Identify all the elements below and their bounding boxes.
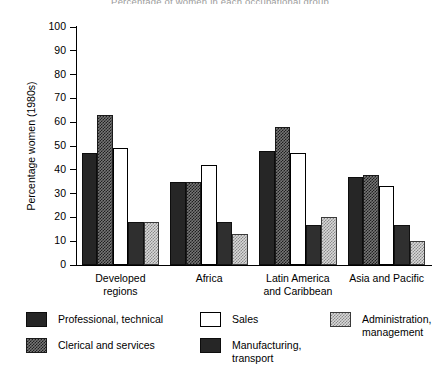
y-tick-label-20: 20 — [26, 211, 66, 221]
y-tick-label-50: 50 — [26, 140, 66, 150]
bar-prof-1 — [170, 182, 186, 265]
bar-cler-1 — [186, 182, 202, 265]
legend-swatch-icon-0 — [26, 312, 47, 327]
legend-label-0: Professional, technical — [58, 312, 163, 326]
y-tick-label-0: 0 — [26, 259, 66, 269]
bar-group-1 — [170, 27, 248, 265]
bar-cler-3 — [363, 175, 379, 265]
legend-item-2[interactable]: Sales — [200, 312, 258, 327]
bar-group-3 — [348, 27, 426, 265]
legend-swatch-icon-1 — [26, 338, 47, 353]
legend-item-0[interactable]: Professional, technical — [26, 312, 163, 327]
chart-legend: Professional, technicalClerical and serv… — [26, 312, 436, 374]
bar-prof-2 — [259, 151, 275, 265]
bar-sale-0 — [113, 148, 129, 265]
legend-item-4[interactable]: Administration, management — [330, 312, 431, 338]
bar-manu-0 — [128, 222, 144, 265]
bar-admi-0 — [144, 222, 160, 265]
bar-group-0 — [82, 27, 160, 265]
bar-admi-3 — [410, 241, 426, 265]
legend-label-4: Administration, management — [362, 312, 431, 338]
plot-area — [76, 27, 431, 265]
legend-label-3: Manufacturing, transport — [232, 338, 301, 364]
bar-manu-3 — [394, 225, 410, 265]
legend-item-1[interactable]: Clerical and services — [26, 338, 155, 353]
y-tick-label-30: 30 — [26, 188, 66, 198]
bar-sale-3 — [379, 186, 395, 265]
chart-title: Percentage of women in each occupational… — [0, 0, 440, 4]
bar-sale-1 — [201, 165, 217, 265]
y-tick-label-90: 90 — [26, 45, 66, 55]
bar-manu-2 — [306, 225, 322, 265]
x-axis-line — [76, 265, 432, 266]
legend-label-2: Sales — [232, 312, 258, 326]
x-label-3: Asia and Pacific — [328, 272, 440, 285]
bar-cler-0 — [97, 115, 113, 265]
bar-admi-2 — [321, 217, 337, 265]
chart-canvas: Percentage of women in each occupational… — [0, 0, 440, 386]
bar-sale-2 — [290, 153, 306, 265]
y-tick-label-60: 60 — [26, 116, 66, 126]
y-tick-label-40: 40 — [26, 164, 66, 174]
bar-admi-1 — [232, 234, 248, 265]
bar-prof-0 — [82, 153, 98, 265]
y-tick-label-80: 80 — [26, 69, 66, 79]
y-tick-label-70: 70 — [26, 92, 66, 102]
y-tick-label-10: 10 — [26, 235, 66, 245]
bar-cler-2 — [275, 127, 291, 265]
bar-manu-1 — [217, 222, 233, 265]
bar-prof-3 — [348, 177, 364, 265]
legend-swatch-icon-2 — [200, 312, 221, 327]
y-tick-label-100: 100 — [26, 21, 66, 31]
legend-item-3[interactable]: Manufacturing, transport — [200, 338, 301, 364]
legend-swatch-icon-4 — [330, 312, 351, 327]
bar-group-2 — [259, 27, 337, 265]
legend-label-1: Clerical and services — [58, 338, 155, 352]
legend-swatch-icon-3 — [200, 338, 221, 353]
